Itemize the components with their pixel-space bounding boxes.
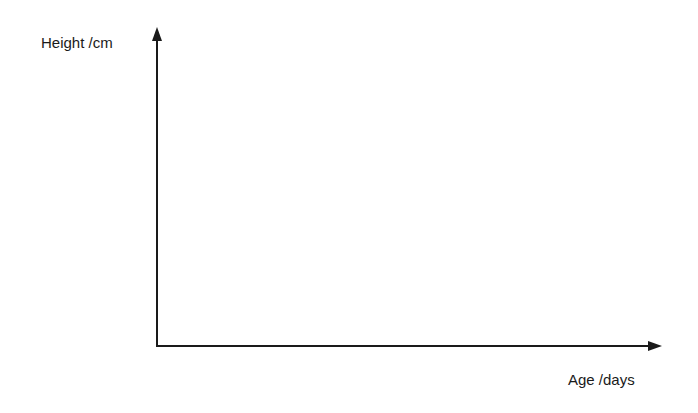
y-axis-label: Height /cm (41, 34, 113, 51)
x-axis-label: Age /days (568, 371, 635, 388)
axes (0, 0, 698, 413)
y-axis-arrow-icon (152, 27, 162, 41)
x-axis-arrow-icon (648, 341, 662, 351)
